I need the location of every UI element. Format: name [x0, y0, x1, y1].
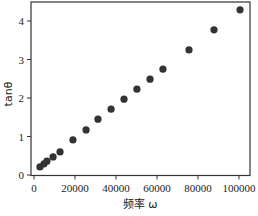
x-axis-ticks: 020000400006000080000100000: [31, 176, 256, 195]
x-tick-label: 60000: [143, 182, 171, 194]
x-tick-label: 40000: [102, 182, 130, 194]
data-point: [69, 136, 76, 143]
y-axis-ticks: 01234: [19, 15, 32, 181]
x-tick-label: 80000: [184, 182, 212, 194]
data-point: [133, 86, 140, 93]
data-point: [82, 126, 89, 133]
data-point: [146, 76, 153, 83]
plot-frame: [31, 2, 250, 176]
y-tick-label: 0: [19, 169, 25, 181]
data-point: [107, 106, 114, 113]
y-tick-label: 4: [19, 15, 25, 27]
x-tick-label: 0: [31, 182, 37, 194]
data-point: [56, 148, 63, 155]
data-point: [43, 158, 50, 165]
data-point: [236, 6, 243, 13]
x-tick-label: 20000: [61, 182, 89, 194]
data-point: [210, 26, 217, 33]
y-tick-label: 2: [19, 92, 25, 104]
data-point: [120, 96, 127, 103]
data-point: [185, 46, 192, 53]
data-points: [36, 6, 243, 170]
y-axis-label: tanθ: [2, 81, 15, 106]
data-point: [94, 116, 101, 123]
y-tick-label: 3: [19, 54, 25, 66]
data-point: [49, 153, 56, 160]
x-axis-label: 频率 ω: [123, 197, 158, 211]
x-tick-label: 100000: [223, 182, 257, 194]
y-tick-label: 1: [19, 131, 25, 143]
scatter-chart: 01234 020000400006000080000100000 频率 ω t…: [0, 0, 258, 216]
data-point: [159, 66, 166, 73]
